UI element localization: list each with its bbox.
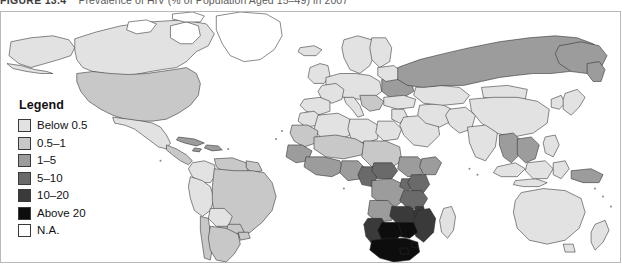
figure-caption: FIGURE 13.4 Prevalence of HIV (% of Popu… xyxy=(0,0,622,7)
legend-swatch-below-05 xyxy=(18,119,31,132)
country-tasmania xyxy=(563,244,575,252)
legend-label-10-20: 10–20 xyxy=(37,189,69,202)
legend-swatch-1-5 xyxy=(18,154,31,167)
legend-label-above-20: Above 20 xyxy=(37,207,86,220)
legend-item-na: N.A. xyxy=(18,222,88,240)
world-map: .c0{fill:#e2e2e2;stroke:#2b2b2b;stroke-w… xyxy=(0,11,621,263)
legend-label-na: N.A. xyxy=(37,224,59,237)
country-lesotho xyxy=(400,248,409,254)
legend-title: Legend xyxy=(19,98,88,112)
figure-label: FIGURE 13.4 xyxy=(0,0,66,6)
legend-label-below-05: Below 0.5 xyxy=(37,119,88,132)
legend-item-1-5: 1–5 xyxy=(18,152,88,170)
world-map-svg: .c0{fill:#e2e2e2;stroke:#2b2b2b;stroke-w… xyxy=(1,12,620,262)
island-baffin xyxy=(170,22,200,44)
legend-label-5-10: 5–10 xyxy=(37,172,63,185)
legend-item-above-20: Above 20 xyxy=(18,205,88,223)
country-central-african-republic xyxy=(372,163,398,179)
legend-label-1-5: 1–5 xyxy=(37,154,56,167)
legend-swatch-na xyxy=(18,224,31,237)
map-legend: Legend Below 0.5 0.5–1 1–5 5–10 10–20 Ab… xyxy=(18,98,88,240)
region-central-asia xyxy=(414,85,470,105)
country-swaziland xyxy=(412,242,418,248)
legend-swatch-05-1 xyxy=(18,137,31,150)
legend-swatch-5-10 xyxy=(18,172,31,185)
legend-swatch-above-20 xyxy=(18,207,31,220)
legend-swatch-10-20 xyxy=(18,189,31,202)
figure-title: Prevalence of HIV (% of Population Aged … xyxy=(78,0,348,6)
legend-item-10-20: 10–20 xyxy=(18,187,88,205)
island-jamaica xyxy=(192,148,201,152)
legend-label-05-1: 0.5–1 xyxy=(37,137,66,150)
legend-item-5-10: 5–10 xyxy=(18,170,88,188)
legend-item-below-05: Below 0.5 xyxy=(18,117,88,135)
legend-item-05-1: 0.5–1 xyxy=(18,135,88,153)
